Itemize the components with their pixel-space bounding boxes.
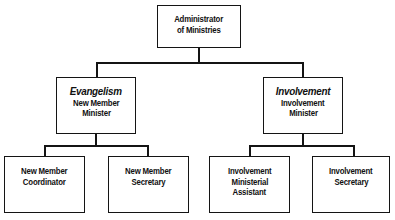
- connector-evangelism-drop: [96, 62, 98, 78]
- node-line: Minister: [82, 108, 111, 119]
- node-line: New Member: [125, 166, 171, 177]
- node-line: New Member: [21, 166, 67, 177]
- connector-involvement-drop: [302, 62, 304, 78]
- node-evangelism: Evangelism New Member Minister: [56, 77, 136, 134]
- node-line: Secretary: [131, 177, 165, 188]
- node-new-member-coordinator: New Member Coordinator: [4, 156, 85, 213]
- node-line: Secretary: [334, 177, 368, 188]
- node-line: Coordinator: [23, 177, 66, 188]
- node-line: Administrator: [175, 14, 224, 25]
- node-line: Minister: [289, 108, 318, 119]
- node-involvement-secretary: Involvement Secretary: [312, 156, 390, 213]
- node-involvement: Involvement Involvement Minister: [263, 77, 343, 134]
- node-administrator-of-ministries: Administrator of Ministries: [157, 5, 241, 48]
- node-new-member-secretary: New Member Secretary: [108, 156, 189, 213]
- node-line: Assistant: [233, 187, 267, 198]
- node-line: Involvement: [281, 98, 325, 109]
- node-involvement-ministerial-assistant: Involvement Ministerial Assistant: [209, 156, 290, 213]
- node-line: Involvement: [329, 166, 373, 177]
- node-heading: Evangelism: [70, 85, 122, 98]
- node-line: of Ministries: [177, 25, 221, 36]
- node-line: Ministerial: [231, 177, 268, 188]
- connector-left-bus: [44, 145, 148, 147]
- connector-right-bus: [249, 145, 354, 147]
- org-chart: Administrator of Ministries Evangelism N…: [0, 0, 395, 220]
- connector-level2-bus: [96, 62, 304, 64]
- node-line: Involvement: [228, 166, 272, 177]
- node-heading: Involvement: [276, 85, 330, 98]
- node-line: New Member: [73, 98, 119, 109]
- connector-root-stem: [198, 48, 200, 63]
